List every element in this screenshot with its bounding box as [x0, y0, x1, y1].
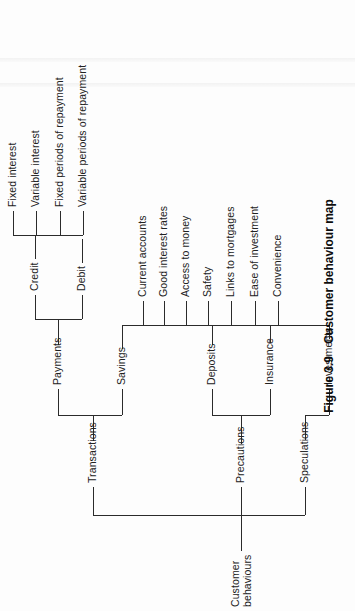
node-label: Good interest rates [157, 206, 169, 297]
node-label-line1: Customer [229, 561, 241, 607]
node-label: Ease of investment [248, 206, 260, 297]
customer-behaviour-map-diagram: Customer behaviours Transactions Precaut… [0, 0, 355, 611]
node-label: Safety [201, 267, 213, 297]
node-label: Precautions [234, 426, 246, 483]
node-label: Links to mortgages [224, 206, 236, 297]
node-label: Credit [28, 262, 40, 291]
node-label-line2: behaviours [241, 555, 253, 607]
figure-caption: Figure 3.9 Customer behaviour map [309, 0, 349, 611]
node-label: Debit [75, 266, 87, 291]
node-safety[interactable]: Safety [202, 267, 214, 297]
node-label: Variable periods of repayment [76, 65, 88, 207]
node-variable-interest[interactable]: Variable interest [30, 130, 42, 207]
node-label: Transactions [86, 422, 98, 483]
node-label: Access to money [179, 216, 191, 297]
node-fixed-interest[interactable]: Fixed interest [7, 143, 19, 207]
node-convenience[interactable]: Convenience [272, 235, 284, 297]
node-label: Fixed interest [6, 143, 18, 207]
node-credit[interactable]: Credit [29, 262, 41, 291]
node-label: Insurance [263, 338, 275, 385]
node-label: Fixed periods of repayment [53, 77, 65, 207]
node-debit[interactable]: Debit [76, 266, 88, 291]
node-fixed-periods-of-repayment[interactable]: Fixed periods of repayment [54, 77, 66, 207]
node-ease-of-investment[interactable]: Ease of investment [249, 206, 261, 297]
node-customer-behaviours[interactable]: Customer behaviours [230, 541, 253, 607]
node-variable-periods-of-repayment[interactable]: Variable periods of repayment [77, 65, 89, 207]
node-precautions[interactable]: Precautions [235, 426, 247, 483]
node-current-accounts[interactable]: Current accounts [137, 215, 149, 297]
figure-title: Customer behaviour map [322, 199, 336, 344]
node-savings[interactable]: Savings [116, 347, 128, 385]
node-good-interest-rates[interactable]: Good interest rates [158, 206, 170, 297]
figure-rotation-container: Customer behaviours Transactions Precaut… [0, 0, 355, 611]
node-transactions[interactable]: Transactions [87, 422, 99, 483]
node-label: Convenience [271, 235, 283, 297]
node-label: Payments [51, 338, 63, 386]
node-label: Current accounts [136, 215, 148, 297]
node-links-to-mortgages[interactable]: Links to mortgages [225, 206, 237, 297]
node-payments[interactable]: Payments [52, 338, 64, 386]
node-label: Deposits [205, 343, 217, 385]
node-label: Savings [115, 347, 127, 385]
figure-number: Figure 3.9 [322, 356, 336, 413]
node-access-to-money[interactable]: Access to money [180, 216, 192, 297]
node-insurance[interactable]: Insurance [264, 338, 276, 385]
node-label: Variable interest [29, 130, 41, 207]
node-deposits[interactable]: Deposits [206, 343, 218, 385]
